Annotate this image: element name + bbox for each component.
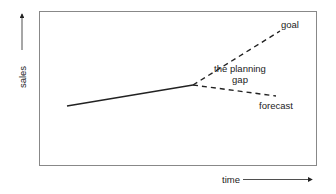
forecast-line bbox=[193, 85, 276, 96]
x-axis-label: time bbox=[222, 174, 240, 185]
planning-gap-diagram: sales time goal the planning gap forecas… bbox=[0, 0, 336, 194]
y-axis-label: sales bbox=[17, 66, 28, 88]
forecast-label: forecast bbox=[259, 100, 293, 111]
goal-label: goal bbox=[281, 19, 299, 30]
history-line bbox=[67, 85, 193, 106]
chart-frame bbox=[40, 12, 317, 166]
planning-gap-label-line2: gap bbox=[232, 74, 248, 85]
planning-gap-label-line1: the planning bbox=[214, 63, 266, 74]
